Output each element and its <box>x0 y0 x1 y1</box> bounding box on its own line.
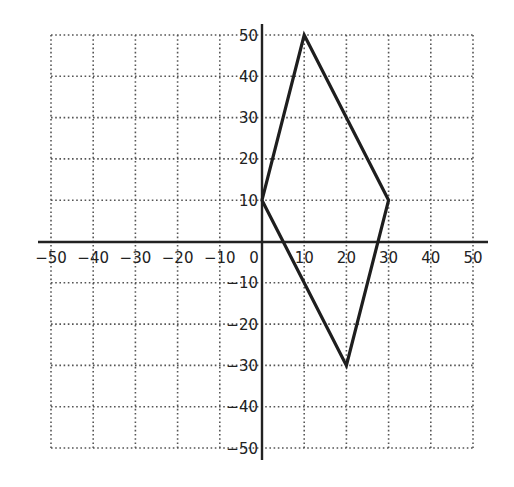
y-tick-label: 50 <box>239 27 258 45</box>
x-axis-tick-labels: −50−40−30−20−1001020304050 <box>35 249 482 267</box>
y-tick-label: −10 <box>226 274 258 292</box>
y-tick-label: 30 <box>239 109 258 127</box>
y-tick-label: 40 <box>239 68 258 86</box>
y-tick-label: 20 <box>239 150 258 168</box>
axes <box>38 24 488 460</box>
x-tick-label: −30 <box>120 249 152 267</box>
x-tick-label: 10 <box>295 249 314 267</box>
y-tick-label: −20 <box>226 316 258 334</box>
x-tick-label: 30 <box>379 249 398 267</box>
x-tick-label: −40 <box>77 249 109 267</box>
coordinate-plane: −50−40−30−20−1001020304050 5040302010−10… <box>0 0 514 487</box>
x-tick-label: −20 <box>162 249 194 267</box>
x-tick-label: 0 <box>249 249 259 267</box>
x-tick-label: 40 <box>421 249 440 267</box>
x-tick-label: −50 <box>35 249 67 267</box>
y-tick-label: 10 <box>239 192 258 210</box>
x-tick-label: −10 <box>204 249 236 267</box>
y-tick-label: −50 <box>226 440 258 458</box>
x-tick-label: 50 <box>463 249 482 267</box>
x-tick-label: 20 <box>337 249 356 267</box>
y-tick-label: −30 <box>226 357 258 375</box>
y-tick-label: −40 <box>226 398 258 416</box>
